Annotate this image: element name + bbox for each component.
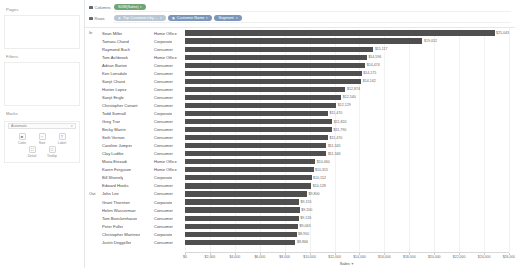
bar-mark[interactable] xyxy=(185,216,299,221)
bar-mark[interactable] xyxy=(185,103,336,108)
row-header-customer[interactable]: Clay Ludtke xyxy=(101,150,153,158)
row-header-segment[interactable]: Consumer xyxy=(153,61,185,69)
row-header-customer[interactable]: Bill Shonely xyxy=(101,174,153,182)
row-header-segment[interactable]: Consumer xyxy=(153,142,185,150)
bar-row[interactable]: $9,155 xyxy=(185,198,509,206)
row-header-customer[interactable]: Sanjit Engle xyxy=(101,93,153,101)
bar-row[interactable]: $8,866 xyxy=(185,238,509,246)
bar-row[interactable]: $11,346 xyxy=(185,150,509,158)
bar-row[interactable]: $9,063 xyxy=(185,222,509,230)
bar-row[interactable]: $9,126 xyxy=(185,214,509,222)
bar-mark[interactable] xyxy=(185,87,345,92)
bar-row[interactable]: $14,142 xyxy=(185,77,509,85)
row-header-customer[interactable]: Tamara Chand xyxy=(101,37,153,45)
row-header-segment[interactable]: Consumer xyxy=(153,118,185,126)
pill-top-customers-set[interactable]: ◉ Top Customers by ... ▾ xyxy=(114,15,166,21)
marks-detail-button[interactable]: ∷ Detail xyxy=(24,146,40,158)
row-header-segment[interactable]: Consumer xyxy=(153,85,185,93)
bar-row[interactable]: $12,540 xyxy=(185,93,509,101)
bar-mark[interactable] xyxy=(185,63,365,68)
row-header-customer[interactable]: Maria Etezadi xyxy=(101,158,153,166)
bar-mark[interactable] xyxy=(185,111,328,116)
row-header-segment[interactable]: Corporate xyxy=(153,230,185,238)
row-header-segment[interactable]: Consumer xyxy=(153,150,185,158)
bar-mark[interactable] xyxy=(185,167,314,172)
bar-mark[interactable] xyxy=(185,151,326,156)
row-header-segment[interactable]: Home Office xyxy=(153,53,185,61)
bar-mark[interactable] xyxy=(185,135,328,140)
pill-segment[interactable]: Segment ▾ xyxy=(214,15,241,21)
row-header-customer[interactable]: Christopher Conant xyxy=(101,101,153,109)
bars-column[interactable]: $25,043$19,052$15,117$14,596$14,474$14,1… xyxy=(185,29,509,252)
row-header-customer[interactable]: Hunter Lopez xyxy=(101,85,153,93)
row-header-customer[interactable]: Adrian Barton xyxy=(101,61,153,69)
row-header-segment[interactable]: Consumer xyxy=(153,190,185,198)
row-header-segment[interactable]: Consumer xyxy=(153,206,185,214)
row-header-customer[interactable]: Edward Hooks xyxy=(101,182,153,190)
row-header-segment[interactable]: Home Office xyxy=(153,29,185,37)
bar-mark[interactable] xyxy=(185,224,298,229)
row-header-customer[interactable]: John Lee xyxy=(101,190,153,198)
rows-shelf-track[interactable]: ◉ Top Customers by ... ▾ ▣ Customer Name… xyxy=(114,15,511,23)
row-header-customer[interactable]: Tom Ashbrook xyxy=(101,53,153,61)
marks-tooltip-button[interactable]: □ Tooltip xyxy=(44,146,60,158)
bar-row[interactable]: $12,874 xyxy=(185,85,509,93)
bar-mark[interactable] xyxy=(185,199,299,204)
bar-row[interactable]: $9,200 xyxy=(185,206,509,214)
row-header-customer[interactable]: Christopher Martinez xyxy=(101,230,153,238)
row-header-customer[interactable]: Todd Sumrall xyxy=(101,109,153,117)
set-group-label[interactable]: Out xyxy=(89,191,95,196)
bar-row[interactable]: $10,152 xyxy=(185,174,509,182)
row-header-customer[interactable]: Helen Wasserman xyxy=(101,206,153,214)
bar-mark[interactable] xyxy=(185,207,300,212)
row-header-segment[interactable]: Consumer xyxy=(153,45,185,53)
bar-row[interactable]: $19,052 xyxy=(185,37,509,45)
row-header-customer[interactable]: Ken Lonsdale xyxy=(101,69,153,77)
bar-row[interactable]: $11,470 xyxy=(185,109,509,117)
marks-size-button[interactable]: ⇔ Size xyxy=(34,133,50,145)
row-header-segment[interactable]: Consumer xyxy=(153,134,185,142)
bar-mark[interactable] xyxy=(185,143,326,148)
row-header-customer[interactable]: Sanjit Chand xyxy=(101,77,153,85)
bar-row[interactable]: $15,117 xyxy=(185,45,509,53)
row-header-customer[interactable]: Karen Ferguson xyxy=(101,166,153,174)
bar-mark[interactable] xyxy=(185,95,341,100)
bar-mark[interactable] xyxy=(185,119,332,124)
filters-shelf-dropzone[interactable] xyxy=(4,62,80,106)
marks-color-button[interactable]: ■ Color xyxy=(14,133,30,145)
bar-mark[interactable] xyxy=(185,79,361,84)
bar-mark[interactable] xyxy=(185,240,295,245)
row-header-segment[interactable]: Consumer xyxy=(153,69,185,77)
row-header-customer[interactable]: Peter Fuller xyxy=(101,222,153,230)
bar-row[interactable]: $9,800 xyxy=(185,190,509,198)
pages-shelf-dropzone[interactable] xyxy=(4,15,80,49)
row-header-customer[interactable]: Grant Thornton xyxy=(101,198,153,206)
bar-row[interactable]: $10,128 xyxy=(185,182,509,190)
bar-row[interactable]: $14,596 xyxy=(185,53,509,61)
marks-label-button[interactable]: T Label xyxy=(54,133,70,145)
bar-mark[interactable] xyxy=(185,175,312,180)
bar-mark[interactable] xyxy=(185,38,422,43)
bar-row[interactable]: $10,315 xyxy=(185,166,509,174)
row-header-segment[interactable]: Corporate xyxy=(153,198,185,206)
row-header-customer[interactable]: Seth Vernon xyxy=(101,134,153,142)
row-header-segment[interactable]: Corporate xyxy=(153,109,185,117)
sort-icon[interactable]: ▼ xyxy=(351,262,354,266)
bar-mark[interactable] xyxy=(185,55,367,60)
bar-row[interactable]: $12,129 xyxy=(185,101,509,109)
row-header-customer[interactable]: Justin Deggeller xyxy=(101,238,153,246)
bar-mark[interactable] xyxy=(185,183,311,188)
bar-row[interactable]: $14,474 xyxy=(185,61,509,69)
bar-row[interactable]: $14,175 xyxy=(185,69,509,77)
columns-shelf-track[interactable]: SUM(Sales) ▾ xyxy=(114,4,511,12)
bar-mark[interactable] xyxy=(185,71,362,76)
row-header-segment[interactable]: Consumer xyxy=(153,222,185,230)
row-header-customer[interactable]: Tom Boeckenhauer xyxy=(101,214,153,222)
row-header-segment[interactable]: Consumer xyxy=(153,182,185,190)
row-header-segment[interactable]: Consumer xyxy=(153,101,185,109)
bar-mark[interactable] xyxy=(185,159,315,164)
set-group-label[interactable]: In xyxy=(89,30,92,35)
row-header-customer[interactable]: Greg Tran xyxy=(101,118,153,126)
bar-mark[interactable] xyxy=(185,47,373,52)
row-header-customer[interactable]: Caroline Jumper xyxy=(101,142,153,150)
